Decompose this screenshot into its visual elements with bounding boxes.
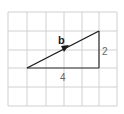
- vector-diagram: b 2 4: [0, 0, 124, 114]
- arrowhead-icon: [61, 45, 69, 52]
- vector-label: b: [58, 34, 65, 46]
- grid: [8, 12, 117, 106]
- vertical-leg-label: 2: [102, 46, 108, 57]
- horizontal-leg-label: 4: [60, 72, 66, 83]
